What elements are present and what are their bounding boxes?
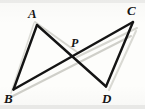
segment-a-b <box>14 25 38 90</box>
geometry-figure: A B C D P <box>0 0 145 109</box>
vertex-label-b: B <box>4 92 13 105</box>
ghost-line-a-b <box>11 23 34 93</box>
vertex-label-c: C <box>127 4 136 17</box>
vertex-label-p: P <box>71 37 78 49</box>
vertex-label-a: A <box>28 7 37 20</box>
geometry-canvas <box>0 0 145 109</box>
segment-c-d <box>106 22 133 87</box>
vertex-label-d: D <box>102 92 111 105</box>
